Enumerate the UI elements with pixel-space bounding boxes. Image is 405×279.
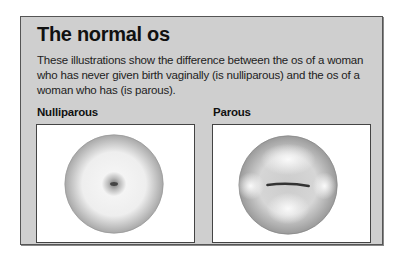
nulliparous-os-illustration [37,125,194,242]
info-panel: The normal os These illustrations show t… [20,16,383,245]
parous-os-illustration [213,125,370,242]
panel-title: The normal os [37,23,170,46]
figure-nulliparous [36,124,195,243]
highlight [266,193,309,224]
highlight [237,172,265,200]
panel-description: These illustrations show the difference … [37,53,377,98]
highlight [261,144,316,175]
os-opening-round [110,182,118,186]
figure-label-parous: Parous [213,106,251,118]
figure-parous [212,124,371,243]
highlight [313,172,337,200]
figure-label-nulliparous: Nulliparous [37,106,98,118]
